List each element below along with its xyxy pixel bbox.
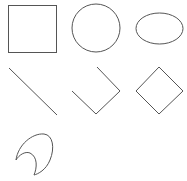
- shapes-svg: [0, 0, 187, 181]
- circle-shape: [72, 4, 120, 52]
- crescent-shape: [16, 134, 53, 175]
- ellipse-shape: [136, 13, 183, 44]
- diamond-shape: [136, 67, 183, 114]
- open-polyline-shape: [72, 67, 120, 114]
- diagonal-line-shape: [9, 68, 57, 115]
- square-shape: [9, 6, 57, 53]
- drawing-canvas: [0, 0, 187, 181]
